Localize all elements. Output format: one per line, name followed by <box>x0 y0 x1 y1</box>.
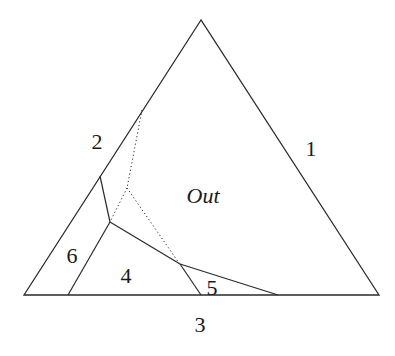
label-region-5: 5 <box>207 275 218 300</box>
dotted-boundaries <box>111 110 179 263</box>
ternary-diagram: 1 2 3 4 5 6 Out <box>0 0 395 356</box>
dotted-lower-right <box>127 188 179 263</box>
boundary-4-5 <box>180 264 201 295</box>
label-region-out: Out <box>187 183 221 208</box>
boundary-4-out <box>110 222 180 264</box>
dotted-lower-left <box>111 188 127 220</box>
label-region-6: 6 <box>67 243 78 268</box>
label-region-3: 3 <box>195 312 206 337</box>
solid-boundaries <box>68 176 278 295</box>
dotted-upper <box>127 110 142 188</box>
boundary-5-out <box>180 264 278 295</box>
label-region-1: 1 <box>306 136 317 161</box>
label-region-4: 4 <box>121 263 132 288</box>
label-region-2: 2 <box>92 129 103 154</box>
boundary-2-6 <box>100 176 110 222</box>
